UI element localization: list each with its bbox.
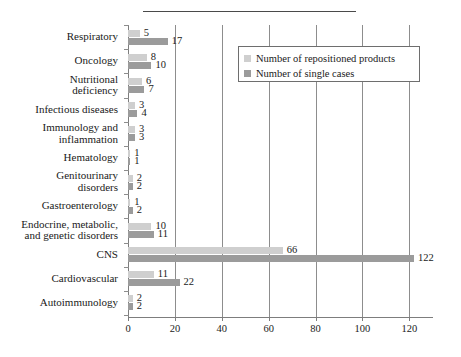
legend-swatch-single-cases-icon [244, 70, 251, 77]
y-axis-tick [124, 49, 129, 50]
bar [128, 158, 130, 165]
bar-value-label: 2 [137, 180, 142, 191]
y-axis-category-label: Hematology [0, 152, 124, 164]
y-axis-tick [124, 194, 129, 195]
bar [128, 175, 133, 182]
bar [128, 207, 133, 214]
y-axis-category-label: Autoimmunology [0, 297, 124, 309]
y-axis-label-line: deficiency [0, 85, 118, 97]
y-axis-label-line: Hematology [0, 152, 118, 164]
bar-chart: 517810673433112212101166122112222 Respir… [0, 0, 461, 357]
bar [128, 102, 135, 109]
bar-value-label: 122 [418, 252, 434, 263]
y-axis-category-label: Oncology [0, 55, 124, 67]
legend-label: Number of repositioned products [256, 53, 395, 64]
y-axis-label-line: CNS [0, 249, 118, 261]
y-axis-label-line: inflammation [0, 134, 118, 146]
x-axis-line [128, 317, 433, 318]
x-axis-tick [409, 317, 410, 321]
bar-value-label: 3 [139, 131, 144, 142]
legend-swatch-repositioned-products-icon [244, 55, 251, 62]
bar-value-label: 7 [148, 83, 153, 94]
y-axis-tick [124, 170, 129, 171]
bar [128, 271, 154, 278]
y-axis-label-line: Immunology and [0, 122, 118, 134]
bar [128, 199, 130, 206]
y-axis-label-line: Infectious diseases [0, 104, 118, 116]
y-axis-category-label: Endocrine, metabolic,and genetic disorde… [0, 219, 124, 242]
bar-value-label: 1 [134, 155, 139, 166]
y-axis-label-line: and genetic disorders [0, 230, 118, 242]
x-axis-tick [128, 317, 129, 321]
y-axis-category-label: Immunology andinflammation [0, 122, 124, 145]
y-axis-label-line: Respiratory [0, 31, 118, 43]
bar [128, 38, 168, 45]
x-axis-tick [362, 317, 363, 321]
bar-value-label: 17 [172, 35, 183, 46]
y-axis-category-label: Cardiovascular [0, 273, 124, 285]
y-axis-tick [124, 73, 129, 74]
bar [128, 134, 135, 141]
bar-value-label: 2 [137, 204, 142, 215]
bar-value-label: 11 [158, 228, 168, 239]
bar-value-label: 5 [144, 27, 149, 38]
top-horizontal-rule [143, 11, 356, 12]
legend-item: Number of repositioned products [244, 51, 414, 65]
y-axis-category-label: CNS [0, 249, 124, 261]
bar [128, 150, 130, 157]
bar [128, 279, 180, 286]
bar [128, 78, 142, 85]
legend-item: Number of single cases [244, 66, 414, 80]
y-axis-label-line: Gastroenterology [0, 200, 118, 212]
y-axis-category-label: Gastroenterology [0, 200, 124, 212]
bar [128, 86, 144, 93]
y-axis-label-line: disorders [0, 182, 118, 194]
x-axis-tick [316, 317, 317, 321]
bar-value-label: 10 [155, 59, 166, 70]
bar [128, 54, 147, 61]
legend: Number of repositioned products Number o… [238, 46, 420, 82]
bar [128, 295, 133, 302]
y-axis-tick [124, 291, 129, 292]
y-axis-tick [124, 243, 129, 244]
y-axis-category-label: Infectious diseases [0, 104, 124, 116]
x-axis-tick [269, 317, 270, 321]
x-axis-tick [175, 317, 176, 321]
x-axis-tick-label: 80 [310, 323, 321, 334]
y-axis-category-label: Respiratory [0, 31, 124, 43]
bar-value-label: 2 [137, 300, 142, 311]
bar [128, 110, 137, 117]
y-axis-tick [124, 25, 129, 26]
bar [128, 255, 414, 262]
y-axis-tick [124, 98, 129, 99]
bar [128, 223, 151, 230]
bar [128, 231, 154, 238]
y-axis-label-line: Oncology [0, 55, 118, 67]
x-axis-tick-label: 20 [170, 323, 181, 334]
y-axis-category-label: Nutritionaldeficiency [0, 74, 124, 97]
bar-value-label: 22 [184, 276, 195, 287]
x-axis-tick-label: 0 [125, 323, 130, 334]
gridline [222, 25, 223, 317]
x-axis-tick [222, 317, 223, 321]
x-axis-tick-label: 120 [401, 323, 417, 334]
bar-value-label: 11 [158, 268, 168, 279]
bar-value-label: 66 [287, 244, 298, 255]
gridline [175, 25, 176, 317]
bar [128, 30, 140, 37]
y-axis-tick [124, 146, 129, 147]
bar [128, 183, 133, 190]
y-axis-label-line: Cardiovascular [0, 273, 118, 285]
x-axis-tick-label: 60 [263, 323, 274, 334]
y-axis-tick [124, 315, 129, 316]
x-axis-tick-label: 40 [217, 323, 228, 334]
bar [128, 247, 283, 254]
y-axis-label-line: Autoimmunology [0, 297, 118, 309]
y-axis-tick [124, 218, 129, 219]
y-axis-category-label: Genitourinarydisorders [0, 170, 124, 193]
bar [128, 303, 133, 310]
bar-value-label: 4 [141, 107, 146, 118]
y-axis-tick [124, 122, 129, 123]
y-axis-tick [124, 267, 129, 268]
legend-label: Number of single cases [256, 68, 354, 79]
